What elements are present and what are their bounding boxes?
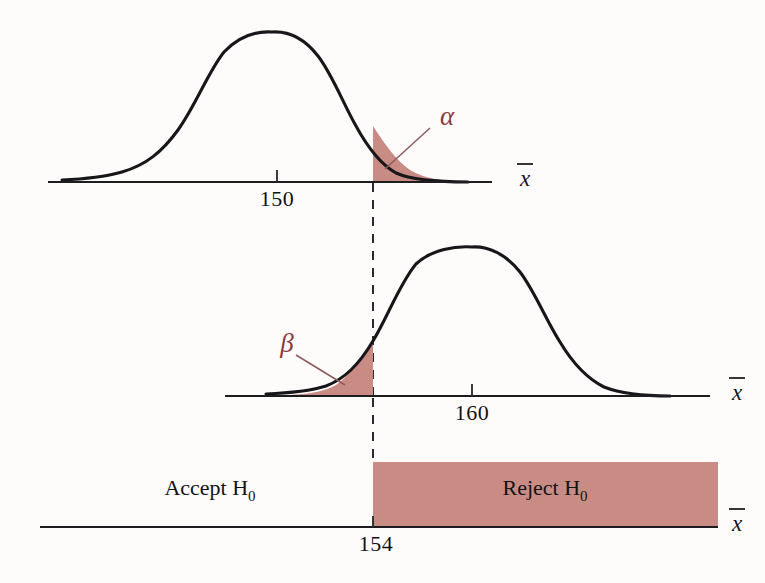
reject-region-subscript: 0 (580, 488, 588, 504)
reject-region-text: Reject H (502, 475, 580, 500)
accept-region-label: Accept H0 (164, 475, 255, 504)
alternative-distribution-panel: 160 x β (225, 247, 745, 425)
statistics-figure: 150 x α 160 (0, 0, 765, 583)
bottom-critical-value-label: 154 (359, 531, 394, 556)
reject-region-label: Reject H0 (502, 475, 587, 504)
bottom-axis-variable-label: x (729, 509, 745, 536)
alpha-leader-line (385, 128, 430, 169)
middle-mean-tick-label: 160 (455, 400, 490, 425)
top-axis-variable-label: x (517, 164, 533, 191)
middle-axis-var-letter: x (731, 380, 743, 405)
alpha-region-fill (373, 126, 468, 182)
accept-region-subscript: 0 (248, 488, 256, 504)
decision-rule-panel: 154 Accept H0 Reject H0 x (40, 462, 745, 556)
top-axis-var-letter: x (519, 166, 531, 191)
top-mean-tick-label: 150 (260, 186, 295, 211)
bottom-axis-var-letter: x (731, 511, 743, 536)
accept-region-text: Accept H (164, 475, 248, 500)
beta-symbol-label: β (279, 328, 294, 358)
middle-axis-variable-label: x (729, 378, 745, 405)
null-distribution-panel: 150 x α (48, 32, 533, 211)
alpha-symbol-label: α (440, 101, 455, 131)
null-distribution-curve (62, 32, 468, 182)
figure-canvas: 150 x α 160 (0, 0, 765, 583)
beta-leader-line (296, 355, 345, 385)
